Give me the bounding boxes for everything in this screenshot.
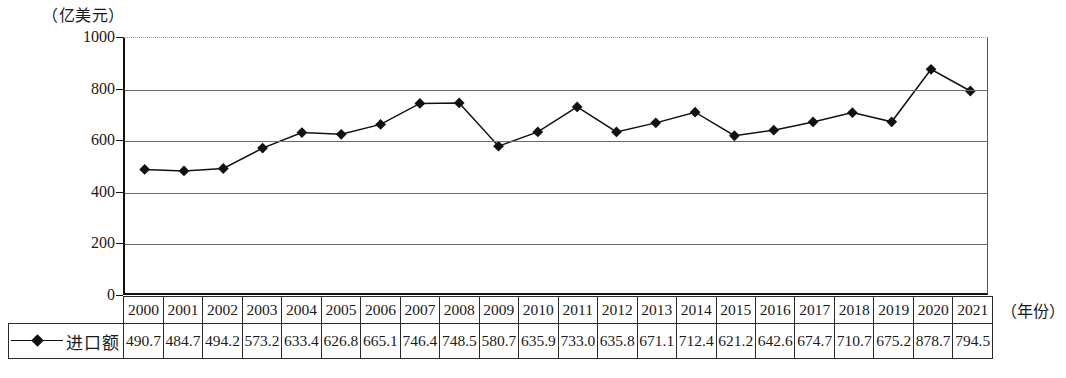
y-tick-mark-400	[116, 192, 123, 193]
value-cell: 674.7	[795, 324, 834, 359]
data-point-marker	[532, 127, 543, 138]
year-cell: 2016	[756, 297, 795, 324]
y-tick-mark-1000	[116, 37, 123, 38]
data-point-marker	[297, 127, 308, 138]
value-cell: 712.4	[677, 324, 716, 359]
table-row-years: 2000200120022003200420052006200720082009…	[9, 297, 1066, 324]
value-cell: 710.7	[834, 324, 873, 359]
gridline-800	[125, 90, 987, 91]
y-tick-label-800: 800	[0, 80, 115, 98]
data-point-marker	[729, 130, 740, 141]
value-cell: 580.7	[479, 324, 518, 359]
table-row-values: 进口额 490.7484.7494.2573.2633.4626.8665.17…	[9, 324, 1066, 359]
chart-page: （亿美元） 02004006008001000 2000200120022003…	[0, 0, 1066, 378]
data-point-marker	[650, 117, 661, 128]
year-cell: 2002	[203, 297, 242, 324]
y-tick-label-200: 200	[0, 234, 115, 252]
data-point-marker	[218, 163, 229, 174]
legend-line-diamond-icon	[11, 334, 63, 348]
data-point-marker	[847, 107, 858, 118]
gridline-200	[125, 244, 987, 245]
x-axis-unit-caption: （年份）	[993, 297, 1066, 324]
value-cell: 626.8	[321, 324, 360, 359]
series-line	[145, 69, 971, 171]
year-cell: 2009	[479, 297, 518, 324]
legend-label: 进口额	[63, 329, 122, 354]
year-cell: 2005	[321, 297, 360, 324]
data-point-marker	[414, 98, 425, 109]
data-point-marker	[336, 129, 347, 140]
value-cell: 878.7	[913, 324, 952, 359]
year-cell: 2004	[282, 297, 321, 324]
table-spacer-cell	[9, 297, 124, 324]
year-cell: 2019	[874, 297, 913, 324]
data-point-marker	[257, 143, 268, 154]
year-cell: 2006	[361, 297, 400, 324]
value-cell: 573.2	[242, 324, 281, 359]
value-cell: 642.6	[756, 324, 795, 359]
data-point-marker	[690, 107, 701, 118]
y-tick-label-1000: 1000	[0, 28, 115, 46]
value-cell: 635.9	[519, 324, 558, 359]
value-cell: 733.0	[558, 324, 597, 359]
data-table: 2000200120022003200420052006200720082009…	[8, 296, 1066, 359]
year-cell: 2020	[913, 297, 952, 324]
year-cell: 2015	[716, 297, 755, 324]
y-axis-unit-caption: （亿美元）	[42, 2, 125, 26]
plot-area	[123, 37, 988, 295]
year-cell: 2001	[163, 297, 202, 324]
y-tick-label-400: 400	[0, 183, 115, 201]
year-cell: 2008	[440, 297, 479, 324]
gridline-400	[125, 193, 987, 194]
import-amount-line-series	[125, 38, 990, 296]
year-cell: 2003	[242, 297, 281, 324]
value-cell: 635.8	[598, 324, 637, 359]
gridline-600	[125, 141, 987, 142]
year-cell: 2021	[953, 297, 993, 324]
data-point-marker	[611, 127, 622, 138]
year-cell: 2018	[834, 297, 873, 324]
year-cell: 2000	[124, 297, 163, 324]
y-tick-label-600: 600	[0, 131, 115, 149]
value-cell: 675.2	[874, 324, 913, 359]
data-point-marker	[965, 86, 976, 97]
value-cell: 621.2	[716, 324, 755, 359]
year-cell: 2011	[558, 297, 597, 324]
value-cell: 794.5	[953, 324, 993, 359]
data-point-marker	[926, 64, 937, 75]
year-cell: 2012	[598, 297, 637, 324]
year-cell: 2017	[795, 297, 834, 324]
table-trailing-spacer	[993, 324, 1066, 359]
value-cell: 633.4	[282, 324, 321, 359]
data-point-marker	[768, 125, 779, 136]
year-cell: 2010	[519, 297, 558, 324]
value-cell: 494.2	[203, 324, 242, 359]
data-point-marker	[886, 116, 897, 127]
value-cell: 665.1	[361, 324, 400, 359]
data-point-marker	[139, 164, 150, 175]
year-cell: 2013	[637, 297, 676, 324]
year-cell: 2014	[677, 297, 716, 324]
data-point-marker	[808, 117, 819, 128]
data-point-marker	[572, 101, 583, 112]
value-cell: 490.7	[124, 324, 163, 359]
value-cell: 671.1	[637, 324, 676, 359]
year-cell: 2007	[400, 297, 439, 324]
y-tick-mark-600	[116, 140, 123, 141]
legend-cell: 进口额	[9, 324, 124, 359]
value-cell: 748.5	[440, 324, 479, 359]
y-tick-mark-800	[116, 89, 123, 90]
data-point-marker	[179, 166, 190, 177]
y-tick-mark-200	[116, 243, 123, 244]
value-cell: 484.7	[163, 324, 202, 359]
value-cell: 746.4	[400, 324, 439, 359]
data-point-marker	[375, 119, 386, 130]
